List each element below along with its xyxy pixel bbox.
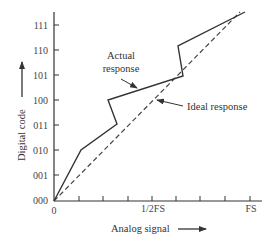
svg-text:111: 111 [34, 20, 48, 31]
y-axis-title: Digital code [16, 109, 27, 161]
ideal-response-label: Ideal response [187, 101, 248, 112]
adc-transfer-chart: 111 110 101 100 011 010 001 000 0 1/2FS … [0, 0, 276, 241]
svg-text:001: 001 [33, 170, 48, 181]
actual-response-label-2: response [103, 63, 140, 74]
svg-text:010: 010 [33, 145, 48, 156]
x-label-half: 1/2FS [141, 203, 165, 214]
svg-text:000: 000 [33, 195, 48, 206]
y-tick-labels: 111 110 101 100 011 010 001 000 [33, 20, 48, 206]
svg-text:101: 101 [33, 70, 48, 81]
svg-text:011: 011 [33, 120, 48, 131]
x-axis-title: Analog signal [111, 223, 170, 234]
x-label-fs: FS [245, 203, 256, 214]
x-label-zero: 0 [52, 205, 57, 216]
x-ticks [79, 196, 250, 201]
actual-response-pointer-icon [121, 79, 137, 88]
actual-response-label-1: Actual [107, 50, 135, 61]
ideal-response-pointer-icon [157, 100, 183, 106]
y-ticks [54, 25, 59, 175]
svg-text:110: 110 [33, 45, 48, 56]
svg-text:100: 100 [33, 95, 48, 106]
